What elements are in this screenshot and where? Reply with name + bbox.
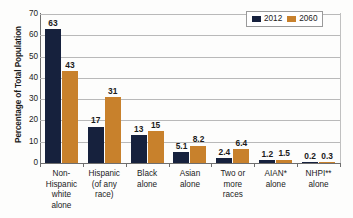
bar-2060-1[interactable] bbox=[105, 97, 121, 163]
bar-value-label: 15 bbox=[143, 121, 169, 129]
bar-2012-2[interactable] bbox=[131, 135, 147, 163]
bar-group: 5.18.2 bbox=[169, 14, 212, 163]
y-axis-ticks: 010203040506070 bbox=[20, 0, 38, 218]
y-tick-label: 70 bbox=[24, 10, 38, 18]
bar-2060-3[interactable] bbox=[190, 146, 206, 163]
legend-label: 2012 bbox=[264, 15, 282, 23]
bar-group: 1315 bbox=[126, 14, 169, 163]
x-category-label: AIAN* alone bbox=[254, 169, 297, 190]
legend-item-2060[interactable]: 2060 bbox=[287, 15, 317, 23]
bar-group: 1.21.5 bbox=[254, 14, 297, 163]
y-tick-label: 40 bbox=[24, 74, 38, 82]
bar-group: 2.46.4 bbox=[211, 14, 254, 163]
y-tick-label: 10 bbox=[24, 138, 38, 146]
bar-2012-1[interactable] bbox=[88, 127, 104, 163]
x-tick-mark bbox=[340, 163, 341, 167]
y-tick-label: 50 bbox=[24, 53, 38, 61]
x-tick-mark bbox=[297, 163, 298, 167]
bar-2012-0[interactable] bbox=[45, 29, 61, 163]
bar-2060-0[interactable] bbox=[62, 71, 78, 163]
x-category-label: Black alone bbox=[126, 169, 169, 190]
legend-swatch-icon bbox=[287, 16, 296, 22]
bar-value-label: 43 bbox=[57, 61, 83, 69]
x-tick-mark bbox=[211, 163, 212, 167]
legend-label: 2060 bbox=[299, 15, 317, 23]
chart-legend: 20122060 bbox=[246, 11, 323, 27]
bar-2012-3[interactable] bbox=[173, 152, 189, 163]
bar-group: 0.20.3 bbox=[297, 14, 340, 163]
x-axis-line bbox=[40, 163, 341, 164]
y-tick-label: 60 bbox=[24, 31, 38, 39]
plot-right-border bbox=[340, 13, 341, 164]
bar-value-label: 8.2 bbox=[185, 135, 211, 143]
y-tick-label: 30 bbox=[24, 95, 38, 103]
bar-group: 1731 bbox=[83, 14, 126, 163]
x-tick-mark bbox=[169, 163, 170, 167]
legend-swatch-icon bbox=[252, 16, 261, 22]
bar-2060-4[interactable] bbox=[233, 149, 249, 163]
bar-group: 6343 bbox=[40, 14, 83, 163]
bar-value-label: 6.4 bbox=[228, 139, 254, 147]
x-category-label: Non- Hispanic white alone bbox=[40, 169, 83, 211]
x-tick-mark bbox=[83, 163, 84, 167]
y-tick-label: 20 bbox=[24, 116, 38, 124]
x-tick-mark bbox=[254, 163, 255, 167]
bar-value-label: 63 bbox=[40, 19, 66, 27]
bar-value-label: 1.5 bbox=[271, 149, 297, 157]
bar-2060-2[interactable] bbox=[148, 131, 164, 163]
x-category-label: NHPI** alone bbox=[297, 169, 340, 190]
x-tick-mark bbox=[40, 163, 41, 167]
bar-value-label: 31 bbox=[100, 87, 126, 95]
x-category-label: Hispanic (of any race) bbox=[83, 169, 126, 201]
bar-value-label: 0.3 bbox=[314, 152, 340, 160]
x-category-label: Two or more races bbox=[211, 169, 254, 201]
x-category-label: Asian alone bbox=[169, 169, 212, 190]
plot-area: 6343173113155.18.22.46.41.21.50.20.3 bbox=[40, 14, 340, 163]
bar-chart: Percentage of Total Population 010203040… bbox=[0, 0, 353, 218]
legend-item-2012[interactable]: 2012 bbox=[252, 15, 282, 23]
x-tick-mark bbox=[126, 163, 127, 167]
y-tick-label: 0 bbox=[24, 159, 38, 167]
